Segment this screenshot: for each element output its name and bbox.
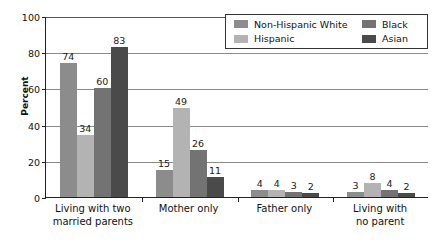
bar-value-label: 74 <box>62 51 74 62</box>
x-category-label: Mother only <box>141 203 237 216</box>
bar[interactable]: 3 <box>347 192 364 197</box>
x-category-label: Living with twomarried parents <box>45 203 141 228</box>
bar[interactable]: 34 <box>77 135 94 197</box>
bar-value-label: 4 <box>274 178 280 189</box>
x-category-label: Living withno parent <box>332 203 428 228</box>
bar[interactable]: 4 <box>251 190 268 197</box>
bar[interactable]: 11 <box>207 177 224 197</box>
legend-label: Non-Hispanic White <box>254 19 347 30</box>
x-tick-mark <box>238 197 239 202</box>
legend-label: Asian <box>382 33 408 44</box>
x-tick-mark <box>142 197 143 202</box>
legend-swatch-icon <box>362 35 376 43</box>
bar-value-label: 49 <box>175 96 187 107</box>
bar-value-label: 4 <box>387 178 393 189</box>
legend-item[interactable]: Asian <box>362 33 437 44</box>
y-tick-label: 40 <box>28 120 40 131</box>
y-tick-mark <box>42 198 46 199</box>
x-axis-category-labels: Living with twomarried parentsMother onl… <box>45 203 428 247</box>
bar-value-label: 4 <box>257 178 263 189</box>
bar-value-label: 2 <box>404 181 410 192</box>
bar-value-label: 83 <box>113 35 125 46</box>
bar[interactable]: 15 <box>156 170 173 197</box>
bar-value-label: 34 <box>79 123 91 134</box>
bar[interactable]: 60 <box>94 88 111 197</box>
bar[interactable]: 3 <box>285 192 302 197</box>
y-tick-label: 0 <box>34 193 40 204</box>
x-category-label: Father only <box>237 203 333 216</box>
bar-value-label: 26 <box>192 138 204 149</box>
bar-value-label: 60 <box>96 76 108 87</box>
x-tick-mark <box>333 197 334 202</box>
y-axis-title: Percent <box>20 66 30 126</box>
y-tick-label: 100 <box>22 12 40 23</box>
y-tick-label: 60 <box>28 84 40 95</box>
bar[interactable]: 2 <box>302 193 319 197</box>
y-tick-label: 20 <box>28 156 40 167</box>
bar-value-label: 3 <box>291 180 297 191</box>
bar[interactable]: 26 <box>190 150 207 197</box>
bar[interactable]: 83 <box>111 47 128 197</box>
bar[interactable]: 49 <box>173 108 190 197</box>
legend-item[interactable]: Hispanic <box>234 33 362 44</box>
bar[interactable]: 74 <box>60 63 77 197</box>
legend-label: Hispanic <box>254 33 294 44</box>
bar[interactable]: 2 <box>398 193 415 197</box>
y-tick-label: 80 <box>28 48 40 59</box>
legend-label: Black <box>382 19 408 30</box>
bar-value-label: 2 <box>308 181 314 192</box>
legend-swatch-icon <box>234 35 248 43</box>
bar-group: 74346083 <box>60 17 128 197</box>
bar-value-label: 3 <box>353 180 359 191</box>
bar-value-label: 11 <box>209 165 221 176</box>
bar-value-label: 15 <box>158 158 170 169</box>
bar[interactable]: 8 <box>364 183 381 197</box>
bar-value-label: 8 <box>370 171 376 182</box>
legend-swatch-icon <box>234 20 248 28</box>
legend-item[interactable]: Non-Hispanic White <box>234 19 362 30</box>
bar-chart: Percent 020406080100 7434608315492611443… <box>0 0 440 249</box>
bar[interactable]: 4 <box>381 190 398 197</box>
bar[interactable]: 4 <box>268 190 285 197</box>
legend-item[interactable]: Black <box>362 19 437 30</box>
legend-swatch-icon <box>362 20 376 28</box>
legend: Non-Hispanic WhiteBlackHispanicAsian <box>225 14 428 49</box>
bar-group: 15492611 <box>156 17 224 197</box>
